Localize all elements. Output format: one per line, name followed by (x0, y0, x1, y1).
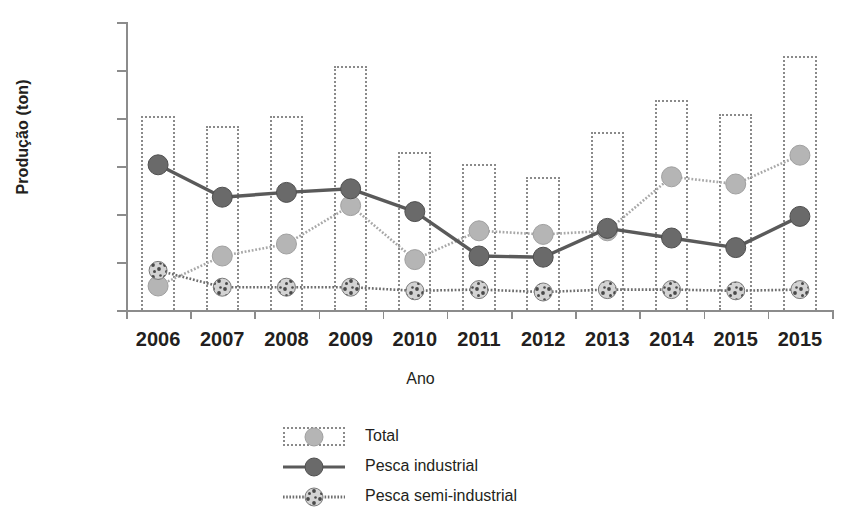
y-tick-mark (117, 22, 126, 24)
x-tick-mark (832, 310, 834, 319)
legend-key-pesca-semi-industrial (281, 484, 349, 510)
legend-label-pesca-semi-industrial: Pesca semi-industrial (365, 487, 517, 505)
data-point-marker (212, 246, 232, 266)
data-point-marker (533, 247, 553, 267)
x-tick-mark (383, 310, 385, 319)
data-point-marker (405, 250, 425, 270)
x-tick-mark (190, 310, 192, 319)
data-point-marker (469, 221, 489, 241)
chart-legend: Total Pesca industrial Pesca semi-indust… (281, 424, 701, 514)
data-point-marker (790, 206, 810, 226)
data-point-marker (341, 179, 361, 199)
x-axis-line (126, 310, 832, 312)
y-tick-mark (117, 214, 126, 216)
x-tick-label: 2008 (254, 328, 318, 351)
x-tick-mark (575, 310, 577, 319)
data-point-marker (727, 282, 745, 300)
data-point-marker (276, 234, 296, 254)
x-tick-mark (254, 310, 256, 319)
data-point-marker (533, 224, 553, 244)
data-point-marker (212, 187, 232, 207)
x-tick-label: 2006 (126, 328, 190, 351)
plot-area: 020004000600080001000012000 200620072008… (126, 22, 832, 310)
data-point-marker (276, 182, 296, 202)
legend-item-pesca-industrial: Pesca industrial (281, 454, 701, 484)
legend-label-total: Total (365, 427, 399, 445)
series-line (158, 165, 800, 257)
series-pesca-semi-industrial (149, 261, 809, 301)
chart-container: Produção (ton) Ano 020004000600080001000… (0, 0, 841, 514)
x-tick-mark (511, 310, 513, 319)
y-tick-mark (117, 70, 126, 72)
x-tick-mark (447, 310, 449, 319)
series-pesca-industrial (148, 155, 810, 267)
x-tick-mark (768, 310, 770, 319)
y-tick-mark (117, 166, 126, 168)
x-tick-label: 2007 (190, 328, 254, 351)
x-tick-label: 2011 (447, 328, 511, 351)
dotted-line-speckled-marker-icon (281, 484, 349, 510)
data-point-marker (662, 167, 682, 187)
x-tick-label: 2013 (575, 328, 639, 351)
x-tick-label: 2010 (383, 328, 447, 351)
data-point-marker (213, 278, 231, 296)
data-point-marker (149, 261, 167, 279)
legend-label-pesca-industrial: Pesca industrial (365, 457, 478, 475)
x-tick-label: 2012 (511, 328, 575, 351)
x-axis-title: Ano (0, 370, 841, 388)
data-point-marker (726, 174, 746, 194)
data-point-marker (469, 246, 489, 266)
data-point-marker (534, 283, 552, 301)
x-tick-label: 2009 (319, 328, 383, 351)
data-point-marker (405, 202, 425, 222)
y-tick-mark (117, 262, 126, 264)
legend-item-total: Total (281, 424, 701, 454)
series-pesca-artesanal (148, 145, 810, 296)
x-tick-mark (704, 310, 706, 319)
solid-line-marker-icon (281, 454, 349, 480)
data-point-marker (277, 278, 295, 296)
y-tick-mark (117, 118, 126, 120)
data-point-marker (406, 282, 424, 300)
x-tick-mark (639, 310, 641, 319)
x-tick-label: 2015 (704, 328, 768, 351)
data-point-marker (791, 281, 809, 299)
y-axis-title: Produção (ton) (14, 52, 32, 222)
y-tick-mark (117, 310, 126, 312)
data-point-marker (726, 238, 746, 258)
data-point-marker (598, 281, 616, 299)
data-point-marker (148, 155, 168, 175)
light-circle-icon (281, 424, 349, 450)
legend-key-total (281, 424, 349, 450)
data-point-marker (663, 281, 681, 299)
data-point-marker (662, 228, 682, 248)
legend-key-pesca-industrial (281, 454, 349, 480)
data-point-marker (342, 278, 360, 296)
x-tick-label: 2015 (768, 328, 832, 351)
data-point-marker (790, 145, 810, 165)
x-tick-label: 2014 (639, 328, 703, 351)
x-tick-mark (126, 310, 128, 319)
series-overlay (126, 22, 832, 310)
data-point-marker (470, 281, 488, 299)
legend-item-pesca-semi-industrial: Pesca semi-industrial (281, 484, 701, 514)
data-point-marker (597, 218, 617, 238)
x-tick-mark (319, 310, 321, 319)
